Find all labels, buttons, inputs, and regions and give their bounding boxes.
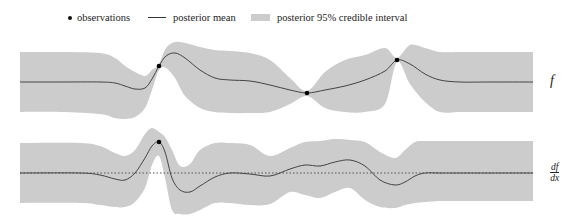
panel-f: [20, 42, 533, 119]
observation-point: [395, 58, 400, 63]
label-denominator: dx: [550, 173, 559, 183]
observation-point: [305, 91, 310, 96]
panel-dfdx: [20, 128, 533, 215]
label-numerator: df: [550, 162, 559, 173]
panel-label-f: f: [550, 73, 554, 89]
observations-dfdx: [157, 140, 162, 145]
credible-band-f: [20, 42, 533, 119]
panel-label-dfdx: df dx: [550, 162, 559, 183]
observation-point: [157, 64, 162, 69]
observation-point: [157, 140, 162, 145]
plot-area: [0, 0, 583, 223]
credible-band-dfdx: [20, 128, 533, 215]
